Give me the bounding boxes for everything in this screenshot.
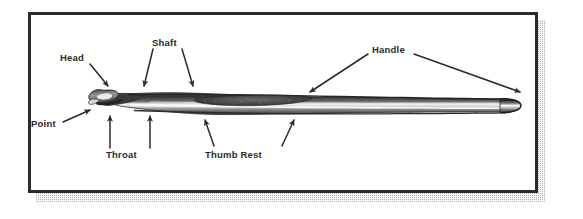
label-head: Head — [60, 53, 84, 63]
label-thumb-rest: Thumb Rest — [205, 150, 262, 160]
label-handle: Handle — [372, 45, 405, 55]
diagram-frame — [28, 12, 538, 193]
label-throat: Throat — [106, 150, 137, 160]
label-point: Point — [31, 119, 56, 129]
crochet-hook-diagram: Head Point Shaft Throat Thumb Rest Handl… — [0, 0, 583, 219]
label-shaft: Shaft — [152, 38, 177, 48]
